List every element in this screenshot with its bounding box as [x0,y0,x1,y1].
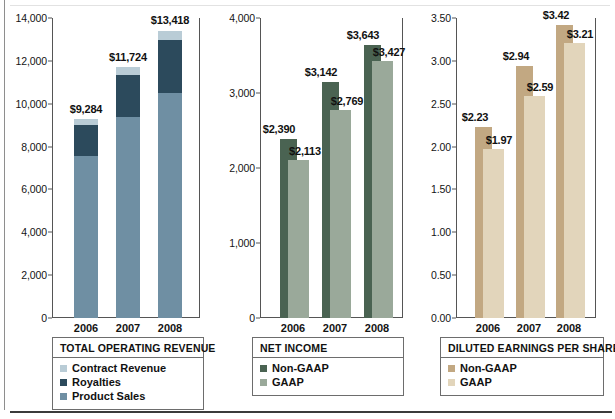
plot-right-border [595,18,596,318]
y-axis-tick-mark [452,18,456,19]
bar-segment-contract-revenue-2008 [158,31,182,40]
legend-title: NET INCOME [253,338,403,358]
bar-gaap-2007 [330,110,351,318]
x-axis-tick-label-2006: 2006 [74,322,98,334]
y-axis-tick-mark [452,60,456,61]
legend-entry: GAAP [448,376,596,389]
legend-entry-label: GAAP [460,376,492,389]
legend-swatch-icon [448,365,455,372]
legend-entry: GAAP [260,376,396,389]
bar-value-label-2008: $13,418 [151,14,189,26]
x-axis-tick-label-2008: 2008 [365,322,389,334]
y-axis-tick-mark [452,103,456,104]
legend-items: Non-GAAPGAAP [441,358,603,395]
y-axis-tick-mark [48,232,52,233]
legend-entry-label: Non-GAAP [272,362,329,375]
bar-value-label-non-gaap-2007: $2.94 [503,50,530,62]
y-axis-tick-label: 0.00 [431,312,451,324]
y-axis-tick-label: 3.00 [431,55,451,67]
bar-stacked-2008 [158,30,182,318]
y-axis-tick-label: 2.00 [431,141,451,153]
bar-gaap-2006 [483,149,504,318]
legend-entry: Non-GAAP [448,362,596,375]
plot-area-diluted-earnings-per-share: 0.000.501.001.502.002.503.003.5020062007… [456,18,596,318]
bar-gaap-2008 [372,61,393,318]
y-axis-tick-mark [452,318,456,319]
bar-value-label-gaap-2006: $1.97 [486,134,513,146]
y-axis-tick-mark [256,168,260,169]
bar-segment-product-sales-2006 [74,156,98,318]
x-axis-tick-label-2007: 2007 [517,322,541,334]
x-axis-tick-label-2006: 2006 [281,322,305,334]
bar-value-label-non-gaap-2006: $2,390 [263,123,295,135]
y-axis-line [52,18,53,318]
bar-segment-contract-revenue-2007 [116,67,140,75]
y-axis-tick-mark [452,189,456,190]
y-axis-tick-mark [48,18,52,19]
x-axis-tick-label-2008: 2008 [158,322,182,334]
bar-value-label-gaap-2007: $2,769 [331,95,363,107]
y-axis-tick-mark [452,146,456,147]
bar-segment-royalties-2006 [74,125,98,156]
legend-swatch-icon [60,393,67,400]
y-axis-tick-mark [256,18,260,19]
legend-entry: Royalties [60,376,196,389]
y-axis-tick-label: 10,000 [15,98,47,110]
legend-entry-label: Contract Revenue [72,362,166,375]
x-axis-tick-label-2007: 2007 [323,322,347,334]
y-axis-tick-mark [452,232,456,233]
legend-net-income: NET INCOME Non-GAAPGAAP [252,337,404,396]
bar-value-label-gaap-2006: $2,113 [289,145,321,157]
bar-segment-contract-revenue-2006 [74,119,98,125]
y-axis-tick-mark [48,146,52,147]
y-axis-tick-label: 12,000 [15,55,47,67]
legend-swatch-icon [60,379,67,386]
bar-stacked-2007 [116,67,140,318]
y-axis-tick-mark [48,103,52,104]
bar-segment-product-sales-2007 [116,117,140,318]
chart-panel-total-operating-revenue: 02,0004,0006,0008,00010,00012,00014,0002… [0,0,212,419]
plot-area-net-income: 01,0002,0003,0004,000200620072008$2,390$… [260,18,403,318]
y-axis-tick-label: 2,000 [21,269,47,281]
bar-value-label-non-gaap-2008: $3,643 [347,29,379,41]
y-axis-tick-mark [48,275,52,276]
y-axis-line [260,18,261,318]
y-axis-tick-label: 2,000 [229,162,255,174]
plot-right-border [402,18,403,318]
legend-diluted-earnings-per-share: DILUTED EARNINGS PER SHARE Non-GAAPGAAP [440,337,604,396]
legend-entry: Product Sales [60,390,196,403]
bar-value-label-gaap-2008: $3.21 [567,28,594,40]
y-axis-line [456,18,457,318]
bar-value-label-non-gaap-2006: $2.23 [462,111,489,123]
y-axis-tick-mark [256,243,260,244]
x-axis-tick-label-2006: 2006 [476,322,500,334]
legend-entry: Non-GAAP [260,362,396,375]
y-axis-tick-label: 4,000 [21,226,47,238]
bar-value-label-gaap-2007: $2.59 [527,81,554,93]
y-axis-tick-label: 4,000 [229,12,255,24]
x-axis-tick-label-2007: 2007 [116,322,140,334]
bar-segment-royalties-2007 [116,75,140,117]
y-axis-tick-label: 1.50 [431,183,451,195]
y-axis-tick-mark [48,318,52,319]
legend-entry: Contract Revenue [60,362,196,375]
legend-items: Non-GAAPGAAP [253,358,403,395]
legend-total-operating-revenue: TOTAL OPERATING REVENUE Contract Revenue… [52,337,204,410]
bar-value-label-2006: $9,284 [70,103,102,115]
y-axis-tick-mark [256,93,260,94]
bar-segment-product-sales-2008 [158,93,182,318]
legend-swatch-icon [448,379,455,386]
y-axis-tick-label: 1.00 [431,226,451,238]
legend-title: TOTAL OPERATING REVENUE [53,338,203,358]
x-axis-tick-label-2008: 2008 [557,322,581,334]
y-axis-tick-label: 6,000 [21,183,47,195]
bar-value-label-gaap-2008: $3,427 [373,46,405,58]
legend-items: Contract RevenueRoyaltiesProduct Sales [53,358,203,409]
y-axis-tick-label: 14,000 [15,12,47,24]
y-axis-tick-mark [452,275,456,276]
y-axis-tick-label: 0.50 [431,269,451,281]
y-axis-tick-label: 0 [249,312,255,324]
bar-value-label-non-gaap-2008: $3.42 [543,9,570,21]
legend-swatch-icon [260,379,267,386]
bar-gaap-2007 [524,96,545,318]
